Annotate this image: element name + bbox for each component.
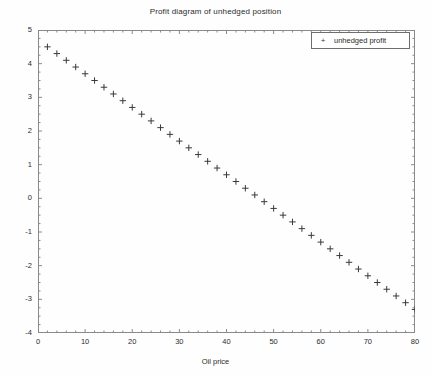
y-tick-label: 2	[6, 126, 32, 135]
x-tick-label: 20	[120, 337, 144, 346]
y-tick-label: -2	[6, 261, 32, 270]
plot-svg	[38, 30, 415, 333]
data-point	[355, 266, 361, 272]
data-point	[148, 118, 154, 124]
page-title: Profit diagram of unhedged position	[0, 7, 431, 16]
data-point-markers	[44, 44, 415, 313]
data-point	[252, 192, 258, 198]
data-point	[374, 279, 380, 285]
data-point	[204, 158, 210, 164]
data-point	[393, 293, 399, 299]
x-tick-label: 10	[73, 337, 97, 346]
x-tick-label: 60	[309, 337, 333, 346]
data-point	[346, 259, 352, 265]
data-point	[233, 178, 239, 184]
data-point	[261, 199, 267, 205]
data-point	[73, 64, 79, 70]
data-point	[63, 57, 69, 63]
x-tick-label: 80	[403, 337, 427, 346]
axes-box	[39, 31, 415, 333]
data-point	[195, 151, 201, 157]
data-point	[384, 286, 390, 292]
data-point	[365, 273, 371, 279]
data-point	[186, 145, 192, 151]
data-point	[402, 300, 408, 306]
y-tick-label: -4	[6, 328, 32, 337]
x-tick-label: 40	[215, 337, 239, 346]
data-point	[91, 77, 97, 83]
data-point	[318, 239, 324, 245]
x-axis-label: Oil price	[0, 357, 431, 366]
y-tick-label: 1	[6, 160, 32, 169]
data-point	[167, 131, 173, 137]
data-point	[82, 71, 88, 77]
legend-marker-plus-icon: +	[312, 37, 334, 45]
data-point	[101, 84, 107, 90]
legend: + unhedged profit	[311, 32, 410, 49]
data-point	[223, 172, 229, 178]
y-tick-label: 4	[6, 59, 32, 68]
data-point	[120, 98, 126, 104]
tick-marks	[38, 30, 415, 333]
data-point	[44, 44, 50, 50]
legend-item-label: unhedged profit	[334, 36, 386, 45]
data-point	[412, 306, 415, 312]
data-point	[54, 50, 60, 56]
data-point	[289, 219, 295, 225]
x-tick-label: 0	[26, 337, 50, 346]
data-point	[157, 124, 163, 130]
data-point	[176, 138, 182, 144]
data-point	[280, 212, 286, 218]
data-point	[129, 104, 135, 110]
data-point	[308, 232, 314, 238]
data-point	[270, 205, 276, 211]
figure-canvas: Profit diagram of unhedged position -4-3…	[0, 0, 431, 376]
x-tick-label: 50	[262, 337, 286, 346]
y-tick-label: 3	[6, 92, 32, 101]
x-tick-label: 70	[356, 337, 380, 346]
data-point	[327, 246, 333, 252]
data-point	[214, 165, 220, 171]
data-point	[299, 225, 305, 231]
plot-area	[38, 30, 415, 333]
y-tick-label: -3	[6, 294, 32, 303]
y-tick-label: 5	[6, 25, 32, 34]
y-tick-label: 0	[6, 193, 32, 202]
data-point	[242, 185, 248, 191]
x-tick-label: 30	[167, 337, 191, 346]
data-point	[336, 252, 342, 258]
data-point	[110, 91, 116, 97]
y-tick-label: -1	[6, 227, 32, 236]
data-point	[138, 111, 144, 117]
